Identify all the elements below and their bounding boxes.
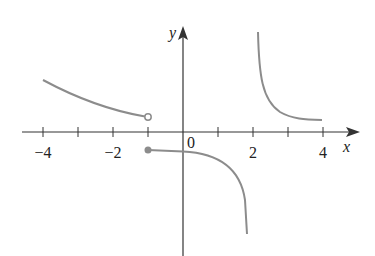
tick-label-neg2: −2 <box>104 144 121 161</box>
open-circle-marker <box>145 114 151 120</box>
right-branch-curve <box>258 32 322 120</box>
y-axis-label: y <box>167 24 177 42</box>
tick-label-2: 2 <box>249 144 257 161</box>
tick-label-4: 4 <box>319 144 327 161</box>
origin-label: 0 <box>187 134 195 151</box>
function-graph: −4 −2 0 2 4 x y <box>0 0 375 256</box>
tick-label-neg4: −4 <box>34 144 51 161</box>
left-branch-curve <box>43 80 145 117</box>
middle-branch-curve <box>148 150 247 234</box>
x-axis-label: x <box>342 138 350 155</box>
graph-canvas: −4 −2 0 2 4 x y <box>0 0 375 256</box>
